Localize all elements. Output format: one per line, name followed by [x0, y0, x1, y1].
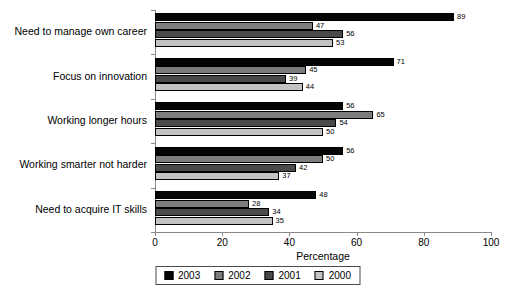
bar[interactable]: [155, 119, 336, 127]
bar-value-label: 45: [306, 67, 317, 75]
bar[interactable]: [155, 102, 343, 110]
bar-value-label: 42: [296, 164, 307, 172]
legend-label: 2000: [329, 270, 351, 281]
bar-value-label: 47: [313, 22, 324, 30]
chart-legend: 2003200220012000: [155, 266, 360, 285]
bar[interactable]: [155, 39, 333, 47]
bar-row: 44: [155, 83, 491, 91]
bar-row: 47: [155, 22, 491, 30]
category-label: Focus on innovation: [53, 71, 147, 83]
bar-row: 37: [155, 172, 491, 180]
bar-value-label: 54: [336, 119, 347, 127]
bar-row: 50: [155, 155, 491, 163]
x-axis-tick-label: 60: [351, 237, 362, 248]
y-axis-tick: [151, 188, 155, 189]
bar[interactable]: [155, 164, 296, 172]
bar[interactable]: [155, 208, 269, 216]
bar[interactable]: [155, 155, 323, 163]
bar[interactable]: [155, 22, 313, 30]
y-axis-tick: [151, 143, 155, 144]
bar-value-label: 39: [286, 75, 297, 83]
bar[interactable]: [155, 200, 249, 208]
bar-row: 45: [155, 66, 491, 74]
bar-row: 54: [155, 119, 491, 127]
bar[interactable]: [155, 75, 286, 83]
legend-swatch-icon: [164, 271, 173, 280]
x-axis-title: Percentage: [155, 250, 491, 262]
legend-label: 2001: [279, 270, 301, 281]
x-axis-tick: [222, 232, 223, 236]
legend-swatch-icon: [265, 271, 274, 280]
y-axis-tick: [151, 10, 155, 11]
plot-area: Need to manage own career89475653Focus o…: [155, 10, 491, 232]
legend-item[interactable]: 2003: [164, 270, 200, 281]
bar-value-label: 37: [279, 172, 290, 180]
bar-row: 71: [155, 58, 491, 66]
y-axis-tick: [151, 54, 155, 55]
x-axis-ticks: 020406080100: [155, 232, 491, 252]
bar-row: 28: [155, 200, 491, 208]
bar[interactable]: [155, 13, 454, 21]
bar-value-label: 50: [323, 155, 334, 163]
bar-value-label: 56: [343, 102, 354, 110]
legend-label: 2003: [178, 270, 200, 281]
legend-swatch-icon: [214, 271, 223, 280]
bar-value-label: 65: [373, 111, 384, 119]
bar-value-label: 53: [333, 39, 344, 47]
legend-item[interactable]: 2001: [265, 270, 301, 281]
legend-item[interactable]: 2000: [315, 270, 351, 281]
bar[interactable]: [155, 172, 279, 180]
bar-row: 42: [155, 164, 491, 172]
bar[interactable]: [155, 83, 303, 91]
x-axis-tick-label: 0: [152, 237, 158, 248]
bar-row: 34: [155, 208, 491, 216]
bar-value-label: 48: [316, 191, 327, 199]
bar[interactable]: [155, 30, 343, 38]
x-axis-tick-label: 20: [217, 237, 228, 248]
legend-swatch-icon: [315, 271, 324, 280]
bar-row: 50: [155, 128, 491, 136]
bar-value-label: 35: [273, 217, 284, 225]
bar[interactable]: [155, 58, 394, 66]
y-axis-tick: [151, 99, 155, 100]
bar-row: 56: [155, 102, 491, 110]
bar-value-label: 50: [323, 128, 334, 136]
bar-row: 35: [155, 217, 491, 225]
bar-value-label: 56: [343, 147, 354, 155]
legend-label: 2002: [228, 270, 250, 281]
x-axis-tick-label: 100: [483, 237, 500, 248]
bar[interactable]: [155, 147, 343, 155]
bar[interactable]: [155, 128, 323, 136]
legend-item[interactable]: 2002: [214, 270, 250, 281]
bar-group: Working longer hours56655450: [155, 99, 491, 143]
bar-group: Working smarter not harder56504237: [155, 143, 491, 187]
x-axis-tick-label: 80: [418, 237, 429, 248]
bar-row: 53: [155, 39, 491, 47]
category-label: Working smarter not harder: [19, 160, 147, 172]
bar-group: Need to manage own career89475653: [155, 10, 491, 54]
bar-value-label: 44: [303, 84, 314, 92]
x-axis-tick-label: 40: [284, 237, 295, 248]
bar-value-label: 34: [269, 208, 280, 216]
category-label: Need to acquire IT skills: [35, 204, 147, 216]
bar[interactable]: [155, 217, 273, 225]
bar-value-label: 28: [249, 200, 260, 208]
bar[interactable]: [155, 191, 316, 199]
bar-chart: Need to manage own career89475653Focus o…: [0, 0, 515, 296]
bar-value-label: 71: [394, 58, 405, 66]
bar-group: Need to acquire IT skills48283435: [155, 188, 491, 232]
bar-row: 56: [155, 30, 491, 38]
x-axis-tick: [289, 232, 290, 236]
bar[interactable]: [155, 66, 306, 74]
bar-row: 56: [155, 147, 491, 155]
category-label: Need to manage own career: [15, 26, 148, 38]
bar-value-label: 56: [343, 31, 354, 39]
bar-row: 65: [155, 111, 491, 119]
x-axis-tick: [155, 232, 156, 236]
x-axis-tick: [424, 232, 425, 236]
x-axis-tick: [357, 232, 358, 236]
bar-value-label: 89: [454, 14, 465, 22]
category-label: Working longer hours: [47, 115, 147, 127]
bar-group: Focus on innovation71453944: [155, 54, 491, 98]
x-axis-tick: [491, 232, 492, 236]
